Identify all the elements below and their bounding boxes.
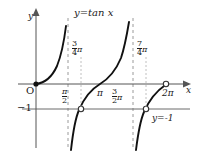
- tan-branch-1: [36, 26, 66, 84]
- y-axis-label: y: [28, 12, 33, 21]
- x-axis-label: x: [186, 86, 191, 95]
- x-tick-label-3pi-over-2: 3 2 π: [112, 88, 122, 105]
- origin-label: O: [26, 86, 34, 96]
- y-tick-label-minus-one: −1: [17, 103, 32, 113]
- level-line-label: y=-1: [152, 114, 173, 123]
- point-7pi-over-4-open: [143, 106, 148, 111]
- annotation-3pi-over-4: 3 4 π: [72, 40, 82, 57]
- annotation-7pi-over-4: 7 4 π: [137, 40, 147, 57]
- x-tick-label-pi-over-2: π 2: [62, 88, 67, 105]
- x-tick-label-2pi: 2π: [162, 89, 174, 98]
- pi-over-2-denominator: 2: [62, 96, 67, 105]
- three-halves-pi-suffix: π: [117, 93, 122, 102]
- y-axis-arrow-icon: [33, 8, 40, 16]
- point-2pi-open: [163, 81, 168, 86]
- graph-canvas: [0, 0, 199, 154]
- three-quarters-pi-suffix: π: [77, 45, 82, 54]
- point-3pi-over-4-open: [78, 106, 83, 111]
- pi-over-2-numerator: π: [62, 88, 67, 96]
- x-tick-label-pi: π: [97, 89, 103, 98]
- seven-quarters-pi-suffix: π: [142, 45, 147, 54]
- graph-title: y=tan x: [74, 8, 113, 18]
- tangent-function-graph: y=tan x y x O −1 π 2 π 3 2 π 2π 3 4 π 7 …: [0, 0, 199, 154]
